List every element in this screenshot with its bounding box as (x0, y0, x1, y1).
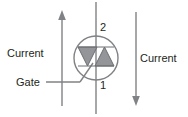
terminal-number-bottom: 1 (100, 80, 106, 91)
label-gate: Gate (16, 77, 40, 88)
arrow-down-icon (132, 96, 140, 106)
triangle-up-icon (95, 47, 114, 66)
label-current-right: Current (140, 53, 177, 64)
arrow-up-icon (58, 10, 66, 20)
terminal-number-top: 2 (100, 22, 106, 33)
triac-current-diagram: Current Gate Current 2 1 (0, 0, 188, 117)
label-current-left: Current (7, 48, 44, 59)
triangle-down-icon (78, 47, 97, 66)
right-current-arrow (132, 12, 140, 106)
left-current-arrow (58, 10, 66, 106)
